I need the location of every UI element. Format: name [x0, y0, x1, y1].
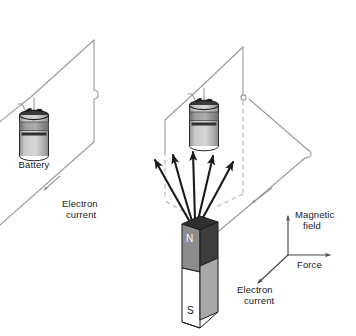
magnet-side-south — [200, 258, 218, 320]
axis-magnetic-field-label-line2: field — [303, 220, 321, 232]
magnet-north-pole-letter: N — [186, 234, 193, 244]
left-wire-right-lower-bend — [78, 142, 94, 156]
magnet-front-north — [182, 224, 200, 272]
axis-electron-current-label-line2: current — [244, 295, 274, 307]
right-wire-top-diagonal — [202, 47, 243, 86]
right-wire-junction-node — [241, 95, 246, 100]
axis-electron-current-label-line1: Electron — [237, 284, 273, 296]
magnet-front-south — [182, 268, 200, 328]
right-wire-upper-right-diagonal — [249, 99, 308, 150]
left-electron-current-arrow — [44, 176, 60, 190]
left-battery-cell — [20, 109, 49, 161]
field-arrow-3 — [193, 152, 195, 220]
diagram-canvas: Battery Electron current N S Magnetic fi… — [0, 0, 356, 336]
right-battery-cell — [190, 99, 219, 151]
left-electron-current-label-line2: current — [66, 209, 96, 221]
right-wire-right-corner-bump — [250, 150, 311, 205]
left-battery-label: Battery — [8, 159, 60, 171]
left-wire-to-battery-terminal-b — [18, 104, 26, 112]
left-electron-current-label-line1: Electron — [62, 198, 98, 210]
hidden-wire-bottom-right — [214, 194, 243, 208]
right-electron-current-arrow — [252, 188, 272, 203]
field-arrow-4 — [198, 156, 213, 220]
right-circuit-wire-loop — [165, 47, 311, 250]
field-arrow-1 — [155, 160, 190, 222]
left-wire-diagonal-top — [32, 40, 94, 96]
magnet-south-pole-letter: S — [187, 306, 194, 316]
left-wire-jump-bump — [94, 90, 98, 142]
magnetic-field-arrow-group — [155, 152, 233, 222]
axis-electron-current-arrow — [258, 255, 288, 283]
axis-force-label: Force — [297, 259, 322, 271]
axis-magnetic-field-label-line1: Magnetic — [295, 209, 334, 221]
